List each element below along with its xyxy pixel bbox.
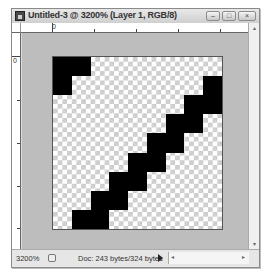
canvas-pixel[interactable] [72,95,91,114]
canvas-pixel[interactable] [147,133,166,152]
vertical-ruler[interactable]: 0 [12,33,21,249]
canvas-pixel[interactable] [91,114,110,133]
canvas-pixel[interactable] [53,210,72,229]
canvas-pixel[interactable] [184,133,203,152]
canvas-pixel[interactable] [72,114,91,133]
scroll-right-arrow-icon[interactable]: ▸ [242,253,245,260]
canvas-pixel[interactable] [72,76,91,95]
canvas-pixel[interactable] [166,57,185,76]
horizontal-ruler[interactable]: 0 [21,23,248,33]
canvas-pixel[interactable] [91,172,110,191]
canvas-pixel[interactable] [203,153,222,172]
canvas-pixel[interactable] [147,76,166,95]
status-menu-arrow-icon[interactable] [158,254,163,262]
canvas-pixel[interactable] [109,57,128,76]
canvas-pixel[interactable] [72,210,91,229]
canvas-pasteboard[interactable] [22,33,248,249]
scroll-down-arrow-icon[interactable]: ▾ [251,240,257,248]
canvas-pixel[interactable] [166,114,185,133]
canvas-pixel[interactable] [53,172,72,191]
canvas-pixel[interactable] [109,95,128,114]
canvas-pixel[interactable] [147,153,166,172]
canvas-pixel[interactable] [166,210,185,229]
canvas-pixel[interactable] [184,76,203,95]
scroll-left-arrow-icon[interactable]: ◂ [171,253,174,260]
canvas-pixel[interactable] [203,114,222,133]
canvas-pixel[interactable] [203,191,222,210]
canvas-pixel[interactable] [109,210,128,229]
canvas-pixel[interactable] [166,95,185,114]
canvas-pixel[interactable] [128,95,147,114]
canvas-pixel[interactable] [53,114,72,133]
scroll-up-arrow-icon[interactable]: ▴ [251,24,257,32]
canvas-pixel[interactable] [72,172,91,191]
canvas-pixel[interactable] [72,133,91,152]
ruler-origin-corner[interactable] [12,23,21,33]
canvas-pixel[interactable] [166,153,185,172]
canvas-pixel[interactable] [128,57,147,76]
canvas-pixel[interactable] [72,57,91,76]
canvas-pixel[interactable] [109,191,128,210]
canvas-pixel[interactable] [72,191,91,210]
canvas-pixel[interactable] [147,210,166,229]
canvas-pixel[interactable] [53,57,72,76]
canvas-pixel[interactable] [109,76,128,95]
canvas-pixel[interactable] [53,133,72,152]
canvas-pixel[interactable] [72,153,91,172]
canvas-pixel[interactable] [109,133,128,152]
canvas-pixel[interactable] [203,172,222,191]
canvas-pixel[interactable] [166,133,185,152]
canvas-pixel[interactable] [147,57,166,76]
canvas-pixel[interactable] [53,153,72,172]
canvas-pixel[interactable] [166,172,185,191]
canvas-pixel[interactable] [128,172,147,191]
canvas-pixel[interactable] [128,153,147,172]
canvas-pixel[interactable] [91,191,110,210]
canvas-pixel[interactable] [203,133,222,152]
canvas-pixel[interactable] [91,95,110,114]
canvas-pixel[interactable] [203,95,222,114]
canvas-pixel[interactable] [147,114,166,133]
ruler-tick [17,228,20,229]
canvas-pixel[interactable] [91,57,110,76]
maximize-button[interactable]: □ [222,11,236,21]
canvas-pixel[interactable] [203,57,222,76]
canvas-pixel[interactable] [109,172,128,191]
canvas-pixel[interactable] [109,153,128,172]
canvas-pixel[interactable] [166,191,185,210]
canvas-pixel[interactable] [128,114,147,133]
canvas-pixel[interactable] [91,76,110,95]
canvas-pixel[interactable] [109,114,128,133]
canvas-pixel[interactable] [53,76,72,95]
image-canvas[interactable] [52,56,223,230]
canvas-pixel[interactable] [53,95,72,114]
canvas-pixel[interactable] [184,153,203,172]
canvas-pixel[interactable] [184,210,203,229]
canvas-pixel[interactable] [147,172,166,191]
canvas-pixel[interactable] [166,76,185,95]
zoom-level-field[interactable]: 3200% [16,254,39,263]
canvas-pixel[interactable] [184,172,203,191]
vertical-scrollbar[interactable]: ▴ ▾ [248,23,259,249]
canvas-pixel[interactable] [91,153,110,172]
canvas-pixel[interactable] [53,191,72,210]
canvas-pixel[interactable] [128,76,147,95]
canvas-pixel[interactable] [184,57,203,76]
horizontal-scrollbar[interactable]: ◂ ▸ [168,252,249,264]
canvas-pixel[interactable] [184,95,203,114]
minimize-button[interactable]: – [206,11,220,21]
canvas-pixel[interactable] [128,191,147,210]
title-bar[interactable]: Untitled-3 @ 3200% (Layer 1, RGB/8) – □ … [12,9,259,23]
canvas-pixel[interactable] [203,76,222,95]
canvas-pixel[interactable] [147,191,166,210]
canvas-pixel[interactable] [128,210,147,229]
canvas-pixel[interactable] [184,191,203,210]
canvas-pixel[interactable] [91,210,110,229]
canvas-pixel[interactable] [128,133,147,152]
canvas-pixel[interactable] [203,210,222,229]
canvas-pixel[interactable] [184,114,203,133]
close-button[interactable]: × [238,11,256,21]
canvas-pixel[interactable] [147,95,166,114]
canvas-pixel[interactable] [91,133,110,152]
status-info-icon[interactable] [48,254,56,262]
